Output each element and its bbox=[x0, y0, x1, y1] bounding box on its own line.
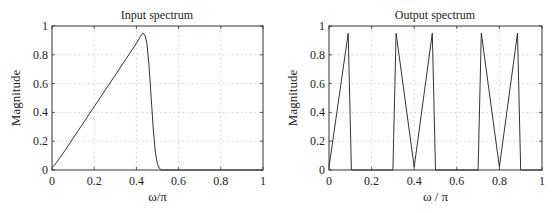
data-line bbox=[329, 33, 542, 170]
grid bbox=[329, 26, 542, 170]
x-tick-label: 0.6 bbox=[171, 174, 186, 188]
x-tick-label: 0.4 bbox=[129, 174, 144, 188]
x-tick-label: 0.8 bbox=[213, 174, 228, 188]
y-tick-label: 0.4 bbox=[310, 105, 325, 119]
x-tick-label: 0 bbox=[326, 174, 332, 188]
y-axis-label: Magnitude bbox=[285, 70, 300, 127]
x-tick-label: 1 bbox=[260, 174, 266, 188]
x-tick-label: 0.6 bbox=[449, 174, 464, 188]
y-tick-label: 0 bbox=[42, 163, 48, 177]
y-tick-label: 0.4 bbox=[33, 105, 48, 119]
x-tick-label: 0.2 bbox=[87, 174, 102, 188]
data-line bbox=[52, 33, 263, 170]
y-tick-label: 0.6 bbox=[310, 77, 325, 91]
output-spectrum-chart: 00.20.40.60.8100.20.40.60.81Output spect… bbox=[285, 8, 545, 204]
y-tick-label: 0.2 bbox=[310, 134, 325, 148]
x-tick-label: 1 bbox=[539, 174, 545, 188]
chart-title: Input spectrum bbox=[121, 8, 194, 22]
x-tick-label: 0.8 bbox=[492, 174, 507, 188]
y-axis-label: Magnitude bbox=[8, 70, 23, 127]
figure: 00.20.40.60.8100.20.40.60.81Input spectr… bbox=[0, 0, 559, 213]
y-tick-label: 0.8 bbox=[33, 48, 48, 62]
y-tick-label: 0.6 bbox=[33, 77, 48, 91]
x-tick-label: 0.2 bbox=[364, 174, 379, 188]
input-spectrum-chart: 00.20.40.60.8100.20.40.60.81Input spectr… bbox=[8, 8, 266, 204]
y-tick-label: 0.8 bbox=[310, 48, 325, 62]
chart-title: Output spectrum bbox=[395, 8, 476, 22]
x-tick-label: 0.4 bbox=[407, 174, 422, 188]
y-tick-label: 0 bbox=[319, 163, 325, 177]
y-tick-label: 1 bbox=[319, 19, 325, 33]
axes-box bbox=[52, 26, 263, 170]
axes-box bbox=[329, 26, 542, 170]
grid bbox=[52, 26, 263, 170]
x-axis-label: ω/π bbox=[148, 189, 167, 204]
y-tick-label: 0.2 bbox=[33, 134, 48, 148]
x-tick-label: 0 bbox=[49, 174, 55, 188]
y-tick-label: 1 bbox=[42, 19, 48, 33]
x-axis-label: ω / π bbox=[423, 189, 449, 204]
